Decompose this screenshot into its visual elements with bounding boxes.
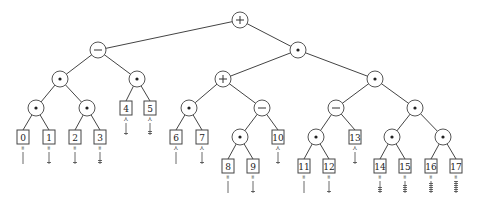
leaf-node: 11∞	[298, 159, 310, 193]
leaf-annotation-mark: ∞	[225, 175, 232, 180]
operator-node	[232, 12, 248, 28]
tree-edge	[98, 20, 240, 50]
leaf-annotation-mark: ∞	[402, 175, 409, 180]
leaf-node: 0∞	[17, 130, 29, 164]
leaf-label: 0	[20, 133, 26, 143]
leaf-annotation-mark: ≺	[123, 116, 130, 121]
operator-node	[328, 100, 344, 116]
leaf-label: 2	[72, 133, 78, 143]
expression-tree: 0∞1∞2∞3∞4≺5≺6≺7≺8∞9∞10≺11∞12∞13≺14∞15∞16…	[0, 0, 481, 213]
operator-node	[384, 129, 400, 145]
dot-icon	[314, 135, 317, 138]
leaf-annotation-mark: ∞	[72, 146, 79, 151]
leaf-node: 15∞	[399, 159, 411, 193]
tree-edge	[240, 20, 298, 50]
operator-node	[52, 71, 68, 87]
leaf-annotation-mark: ∞	[326, 175, 333, 180]
leaf-label: 7	[199, 133, 205, 143]
operator-node	[232, 129, 248, 145]
operator-node	[79, 100, 95, 116]
leaf-node: 10≺	[272, 130, 284, 164]
leaf-annotation-mark: ≺	[199, 145, 206, 150]
leaf-node: 17∞	[450, 159, 462, 193]
leaf-node: 4≺	[120, 101, 132, 135]
dot-icon	[373, 77, 376, 80]
leaf-annotation-mark: ≺	[352, 145, 359, 150]
operator-nodes	[28, 12, 451, 145]
leaf-node: 1∞	[43, 130, 55, 164]
leaf-annotation-mark: ∞	[301, 175, 308, 180]
leaf-label: 4	[123, 104, 129, 114]
leaf-node: 16∞	[425, 159, 437, 193]
leaf-annotation-mark: ≺	[275, 145, 282, 150]
leaf-annotation-mark: ∞	[97, 146, 104, 151]
dot-icon	[441, 135, 444, 138]
dot-icon	[413, 106, 416, 109]
dot-icon	[135, 77, 138, 80]
dot-icon	[390, 135, 393, 138]
leaf-node: 8∞	[222, 159, 234, 193]
leaf-annotation-mark: ∞	[453, 175, 460, 180]
leaf-node: 5≺	[144, 101, 156, 135]
operator-node	[308, 129, 324, 145]
leaf-label: 16	[425, 162, 437, 172]
leaf-node: 7≺	[196, 130, 208, 164]
operator-node	[28, 100, 44, 116]
operator-node	[290, 42, 306, 58]
dot-icon	[85, 106, 88, 109]
tree-edge	[298, 50, 375, 79]
operator-node	[254, 100, 270, 116]
leaf-annotation-mark: ≺	[147, 116, 154, 121]
leaf-node: 6≺	[170, 130, 182, 164]
operator-node	[367, 71, 383, 87]
leaf-annotation-mark: ≺	[173, 145, 180, 150]
leaf-node: 13≺	[349, 130, 361, 164]
leaf-label: 3	[97, 133, 103, 143]
dot-icon	[296, 48, 299, 51]
operator-node	[181, 100, 197, 116]
operator-node	[407, 100, 423, 116]
leaf-node: 2∞	[69, 130, 81, 164]
dot-icon	[58, 77, 61, 80]
leaf-label: 8	[225, 162, 231, 172]
leaf-annotation-mark: ∞	[20, 146, 27, 151]
operator-node	[215, 71, 231, 87]
leaf-label: 13	[349, 133, 361, 143]
tree-edge	[223, 50, 298, 79]
leaf-annotation-mark: ∞	[46, 146, 53, 151]
leaf-label: 9	[250, 162, 256, 172]
dot-icon	[238, 135, 241, 138]
leaf-label: 11	[298, 162, 309, 172]
leaf-label: 12	[323, 162, 334, 172]
operator-node	[129, 71, 145, 87]
leaf-label: 10	[272, 133, 284, 143]
leaf-annotation-mark: ∞	[377, 175, 384, 180]
leaf-label: 6	[173, 133, 179, 143]
dot-icon	[34, 106, 37, 109]
leaf-annotation-mark: ∞	[250, 175, 257, 180]
operator-node	[435, 129, 451, 145]
leaf-label: 5	[147, 104, 153, 114]
leaf-node: 9∞	[247, 159, 259, 193]
leaf-node: 14∞	[374, 159, 386, 193]
leaf-node: 3∞	[94, 130, 106, 164]
leaf-label: 15	[399, 162, 411, 172]
leaf-label: 1	[46, 133, 52, 143]
leaf-node: 12∞	[323, 159, 335, 193]
dot-icon	[187, 106, 190, 109]
leaf-label: 14	[374, 162, 386, 172]
leaf-annotation-mark: ∞	[428, 175, 435, 180]
leaf-label: 17	[450, 162, 462, 172]
operator-node	[90, 42, 106, 58]
